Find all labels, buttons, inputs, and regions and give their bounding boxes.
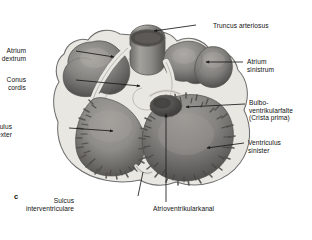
label-truncus-arteriosus: Truncus arteriosus	[213, 22, 269, 30]
label-atrium-sinistrum: Atrium sinistrum	[247, 58, 274, 73]
label-bulboventrikularfalte: Bulbo- ventrikularfalte (Crista prima)	[249, 99, 293, 122]
panel-label: c	[14, 192, 18, 201]
label-atrium-dextrum: Atrium dextrum	[2, 47, 26, 62]
truncus-arteriosus-structure	[130, 25, 165, 75]
label-conus-cordis: Conus cordis	[7, 76, 26, 91]
leader-truncus-arteriosus	[154, 25, 196, 31]
label-ventriculus-sinister: Ventriculus sinister	[248, 139, 281, 154]
atrioventrikularkanal-structure	[150, 95, 182, 117]
label-ventriculus-dexter: Ventriculus dexter	[0, 123, 12, 138]
label-sulcus-interventriculare: Sulcus interventriculare	[26, 197, 74, 212]
label-atrioventrikularkanal: Atrioventrikularkanal	[153, 205, 214, 213]
